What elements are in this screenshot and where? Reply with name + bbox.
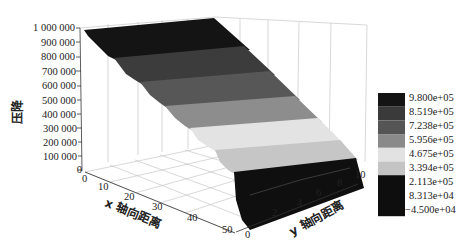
- colorbar-label: 7.238e+05: [409, 120, 454, 131]
- z-axis-label: 压降: [10, 99, 25, 124]
- colorbar-label: 4.675e+05: [409, 148, 454, 159]
- y-tick: 2: [272, 207, 277, 218]
- x-tick: 0: [82, 173, 87, 184]
- x-axis: 0 10 20 30 40 50 x 轴向距离: [82, 172, 235, 235]
- colorbar-label: 3.394e+05: [409, 162, 454, 173]
- colorbar-label: 8.313e+04: [409, 190, 454, 201]
- z-tick: 100 000: [43, 151, 77, 162]
- y-tick: 0: [245, 229, 250, 240]
- x-tick: 30: [152, 201, 163, 212]
- y-tick: 6: [316, 187, 321, 198]
- z-tick: 800 000: [41, 51, 75, 62]
- y-tick: 10: [355, 169, 366, 180]
- z-tick: 900 000: [41, 37, 75, 48]
- z-axis: 1 000 000 900 000 800 000 700 000 600 00…: [10, 22, 82, 175]
- x-tick: 40: [187, 212, 198, 223]
- z-tick: 400 000: [42, 109, 76, 120]
- z-tick: 700 000: [42, 66, 76, 77]
- colorbar-label: 5.956e+05: [409, 134, 454, 145]
- z-tick: 500 000: [42, 95, 76, 106]
- y-tick: 4: [297, 197, 303, 208]
- colorbar-label: 8.519e+05: [409, 106, 454, 117]
- x-tick: 10: [98, 181, 109, 192]
- colorbar-label: 9.800e+05: [409, 92, 454, 103]
- z-tick: 600 000: [42, 80, 76, 91]
- x-tick: 50: [222, 224, 233, 235]
- surface-chart: 1 000 000 900 000 800 000 700 000 600 00…: [0, 0, 466, 240]
- colorbar-legend: 9.800e+05 8.519e+05 7.238e+05 5.956e+05 …: [378, 92, 456, 216]
- colorbar-label: 2.113e+05: [409, 176, 453, 187]
- z-tick: 300 000: [43, 123, 77, 134]
- z-tick: 200 000: [43, 137, 77, 148]
- colorbar-label: −4.500e+04: [405, 204, 456, 215]
- z-tick: 1 000 000: [33, 22, 75, 33]
- y-tick: 8: [337, 177, 342, 188]
- x-tick: 20: [124, 191, 135, 202]
